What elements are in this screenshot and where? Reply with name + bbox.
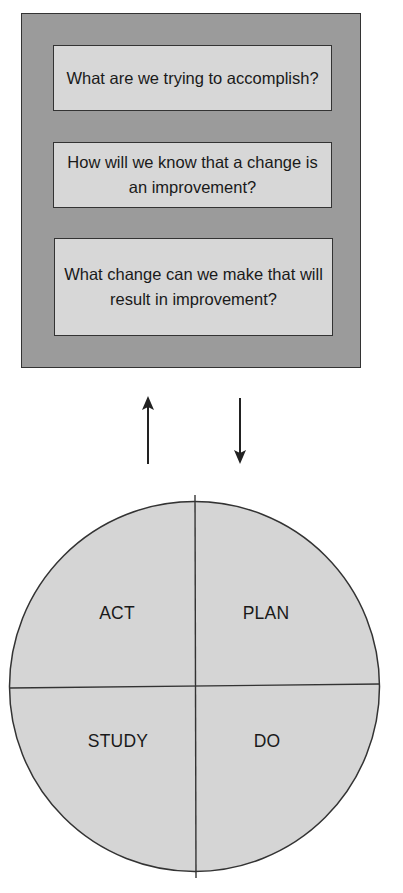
quadrant-study-label: STUDY <box>88 731 148 752</box>
quadrant-act-label: ACT <box>99 603 135 624</box>
question-box-aim: What are we trying to accomplish? <box>53 45 332 111</box>
question-text-measure: How will we know that a change is an imp… <box>62 150 323 200</box>
questions-panel: What are we trying to accomplish? How wi… <box>21 13 361 368</box>
question-text-change: What change can we make that will result… <box>63 262 324 312</box>
question-box-change: What change can we make that will result… <box>54 238 333 336</box>
arrow-down-icon <box>230 396 250 468</box>
quadrant-plan-label: PLAN <box>243 603 290 624</box>
question-text-aim: What are we trying to accomplish? <box>66 66 318 91</box>
arrow-up-icon <box>138 394 158 466</box>
quadrant-do-label: DO <box>254 731 281 752</box>
question-box-measure: How will we know that a change is an imp… <box>53 142 332 208</box>
pdsa-cycle-circle <box>0 480 403 893</box>
